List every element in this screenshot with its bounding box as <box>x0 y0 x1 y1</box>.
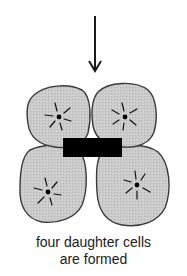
caption-line-1: four daughter cells <box>0 233 187 251</box>
bottom-right-cell <box>97 145 170 226</box>
top-right-cell <box>92 83 156 147</box>
caption-line-2: are formed <box>0 250 187 268</box>
down-arrow-icon <box>89 16 101 71</box>
black-bar <box>63 138 122 157</box>
